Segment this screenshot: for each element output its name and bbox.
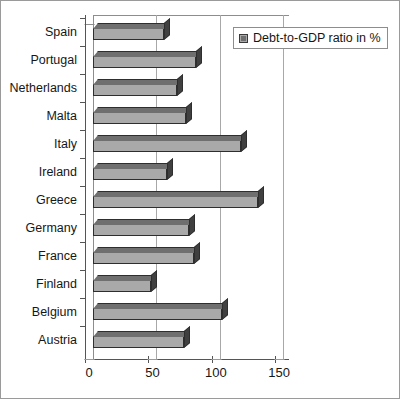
x-axis-label: 100 bbox=[205, 365, 227, 380]
category-label-france: France bbox=[38, 249, 77, 263]
bar-top-face bbox=[93, 247, 199, 253]
bar-front-face bbox=[93, 252, 194, 264]
bar-malta[interactable] bbox=[93, 107, 186, 124]
bar-top-face bbox=[93, 191, 263, 197]
bar-front-face bbox=[93, 28, 164, 40]
bar-top-face bbox=[93, 51, 201, 57]
bar-top-face bbox=[93, 107, 191, 113]
y-tick-9 bbox=[80, 270, 86, 271]
bar-top-face bbox=[93, 79, 182, 85]
y-tick-1 bbox=[80, 46, 86, 47]
bar-side-face bbox=[194, 242, 200, 264]
category-label-spain: Spain bbox=[45, 25, 77, 39]
bar-top-face bbox=[93, 331, 189, 337]
gridline-150 bbox=[283, 15, 284, 359]
y-axis-line bbox=[85, 15, 86, 359]
bar-top-face bbox=[93, 163, 172, 169]
legend-swatch-icon bbox=[239, 34, 248, 43]
bar-front-face bbox=[93, 308, 222, 320]
category-label-malta: Malta bbox=[46, 109, 77, 123]
x-axis-label: 50 bbox=[145, 365, 159, 380]
bar-side-face bbox=[258, 186, 264, 208]
bar-portugal[interactable] bbox=[93, 51, 196, 68]
x-axis-line bbox=[85, 359, 289, 360]
y-tick-2 bbox=[80, 74, 86, 75]
bar-front-face bbox=[93, 112, 186, 124]
y-tick-3 bbox=[80, 102, 86, 103]
bar-top-face bbox=[93, 275, 156, 281]
category-label-austria: Austria bbox=[38, 333, 77, 347]
bar-front-face bbox=[93, 280, 151, 292]
bar-france[interactable] bbox=[93, 247, 194, 264]
bar-finland[interactable] bbox=[93, 275, 151, 292]
chart-legend[interactable]: Debt-to-GDP ratio in % bbox=[233, 27, 388, 49]
bar-netherlands[interactable] bbox=[93, 79, 177, 96]
bar-side-face bbox=[241, 130, 247, 152]
bar-front-face bbox=[93, 224, 189, 236]
bar-front-face bbox=[93, 140, 241, 152]
bar-front-face bbox=[93, 336, 184, 348]
bar-front-face bbox=[93, 196, 258, 208]
bar-spain[interactable] bbox=[93, 23, 164, 40]
bar-front-face bbox=[93, 168, 167, 180]
bar-side-face bbox=[189, 214, 195, 236]
bar-front-face bbox=[93, 84, 177, 96]
bar-side-face bbox=[164, 18, 170, 40]
y-tick-8 bbox=[80, 242, 86, 243]
category-label-italy: Italy bbox=[54, 137, 77, 151]
bar-greece[interactable] bbox=[93, 191, 258, 208]
category-label-germany: Germany bbox=[26, 221, 77, 235]
y-tick-7 bbox=[80, 214, 86, 215]
bar-side-face bbox=[177, 74, 183, 96]
bar-top-face bbox=[93, 219, 194, 225]
category-label-ireland: Ireland bbox=[39, 165, 77, 179]
category-label-greece: Greece bbox=[36, 193, 77, 207]
y-tick-10 bbox=[80, 298, 86, 299]
bar-top-face bbox=[93, 23, 169, 29]
category-label-finland: Finland bbox=[36, 277, 77, 291]
bar-side-face bbox=[184, 326, 190, 348]
x-axis-label: 150 bbox=[268, 365, 290, 380]
bar-front-face bbox=[93, 56, 196, 68]
y-tick-6 bbox=[80, 186, 86, 187]
bar-austria[interactable] bbox=[93, 331, 184, 348]
bar-side-face bbox=[196, 46, 202, 68]
y-tick-0 bbox=[80, 18, 86, 19]
y-tick-11 bbox=[80, 326, 86, 327]
category-label-belgium: Belgium bbox=[32, 305, 77, 319]
bar-top-face bbox=[93, 135, 246, 141]
plot-wall-top-edge bbox=[93, 15, 289, 16]
bar-side-face bbox=[167, 158, 173, 180]
x-axis-label: 0 bbox=[85, 365, 92, 380]
legend-label: Debt-to-GDP ratio in % bbox=[253, 31, 381, 45]
bar-germany[interactable] bbox=[93, 219, 189, 236]
y-tick-4 bbox=[80, 130, 86, 131]
category-label-netherlands: Netherlands bbox=[10, 81, 77, 95]
category-label-portugal: Portugal bbox=[30, 53, 77, 67]
bar-ireland[interactable] bbox=[93, 163, 167, 180]
bar-belgium[interactable] bbox=[93, 303, 222, 320]
bar-top-face bbox=[93, 303, 227, 309]
bar-italy[interactable] bbox=[93, 135, 241, 152]
chart-screenshot: 050100150 SpainPortugalNetherlandsMaltaI… bbox=[0, 0, 400, 399]
bar-side-face bbox=[222, 298, 228, 320]
y-tick-5 bbox=[80, 158, 86, 159]
bar-side-face bbox=[186, 102, 192, 124]
